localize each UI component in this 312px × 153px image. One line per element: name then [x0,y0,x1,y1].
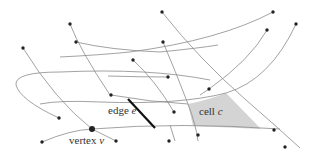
point [40,140,43,143]
curve [70,24,110,95]
point [57,116,60,119]
vertex-label-var: v [99,134,104,146]
point [161,40,164,43]
arrangement-diagram: edge e cell c vertex v [0,0,312,153]
vertex-label: vertex v [69,134,104,146]
point [74,40,77,43]
point [114,139,117,142]
edge-label-word: edge [108,104,129,116]
curve [133,60,174,112]
vertex-v [89,126,95,132]
edge-label-var: e [132,104,137,116]
point [172,110,175,113]
point [131,58,134,61]
curve [23,48,116,141]
point [294,22,297,25]
point [272,128,275,131]
point [283,145,286,148]
cell-label-word: cell [199,105,215,117]
point [166,75,169,78]
cell-label-var: c [218,105,223,117]
cell-label: cell c [199,105,223,117]
point [21,46,24,49]
point [271,10,274,13]
point [167,139,170,142]
edge-label: edge e [108,104,136,116]
curve [76,42,218,52]
curve [108,76,168,77]
point [160,10,163,13]
point [68,22,71,25]
vertex-label-word: vertex [69,134,96,146]
point [265,28,268,31]
point [196,133,199,136]
curve [163,42,198,141]
curve [40,24,296,104]
arrangement-curves [0,0,312,153]
point [207,87,210,90]
point [109,93,112,96]
curve [170,125,175,141]
curve [200,30,267,95]
